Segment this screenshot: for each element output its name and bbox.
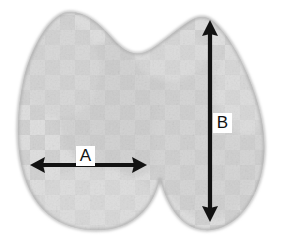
measurement-b-label: B <box>213 113 232 133</box>
measurement-a-label: A <box>76 146 95 166</box>
scan-canvas <box>0 0 284 243</box>
scan-figure: A B <box>0 0 284 243</box>
